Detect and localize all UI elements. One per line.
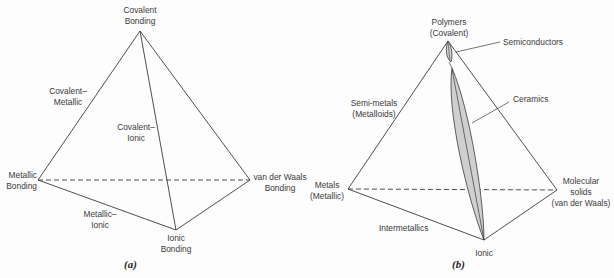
vertex-label-covalent-bonding: Covalent Bonding: [116, 5, 164, 27]
ceramics-region: [449, 62, 484, 240]
bonding-tetrahedra-figure: Covalent Bonding Metallic Bonding Ionic …: [0, 0, 614, 278]
region-label-intermetallics: Intermetallics: [379, 223, 428, 234]
edge-ionic-molecular: [484, 190, 557, 240]
edge-ionic-vdw: [176, 180, 250, 230]
vertex-label-vdw-bonding: van der Waals Bonding: [249, 172, 311, 194]
caption-a: (a): [124, 258, 137, 270]
vertex-label-polymers: Polymers (Covalent): [424, 17, 474, 39]
edge-covalent-vdw: [140, 31, 250, 180]
vertex-label-metals: Metals (Metallic): [306, 180, 348, 202]
semiconductors-leader: [456, 42, 500, 52]
vertex-label-ionic: Ionic: [468, 248, 500, 259]
semiconductors-region: [446, 41, 452, 62]
edge-label-covalent-ionic: Covalent– Ionic: [116, 122, 156, 144]
caption-b: (b): [452, 258, 465, 270]
vertex-label-molecular-solids: Molecular solids (van der Waals): [548, 176, 614, 209]
region-label-ceramics: Ceramics: [513, 94, 548, 105]
region-label-semi-metals: Semi-metals (Metalloids): [349, 98, 399, 120]
region-label-semiconductors: Semiconductors: [503, 37, 563, 48]
edge-label-covalent-metallic: Covalent– Metallic: [48, 86, 88, 108]
edge-label-metallic-ionic: Metallic– Ionic: [80, 209, 120, 231]
vertex-label-ionic-bonding: Ionic Bonding: [154, 233, 198, 255]
edge-metal-molecular-hidden: [348, 189, 557, 190]
ceramics-leader: [472, 102, 509, 123]
vertex-label-metallic-bonding: Metallic Bonding: [0, 170, 37, 192]
